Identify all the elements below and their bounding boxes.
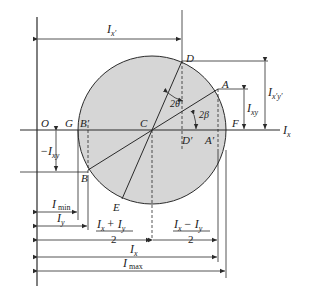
label-F: F bbox=[231, 117, 239, 129]
label-I-xy: Ixy bbox=[246, 101, 259, 117]
label-I-min: Imin bbox=[51, 197, 70, 212]
label-O: O bbox=[41, 117, 49, 129]
label-I-xpyp: Ix′y′ bbox=[267, 85, 283, 101]
label-B-prime: B′ bbox=[80, 117, 90, 129]
label-I-x: Ix bbox=[129, 242, 138, 258]
label-diff-denominator: 2 bbox=[188, 233, 194, 245]
label-sum-numerator: Ix+ Iy bbox=[96, 217, 126, 233]
label-I-max: Imax bbox=[122, 256, 143, 271]
label-diff-numerator: Ix− Iy bbox=[173, 217, 203, 233]
label-A-prime: A′ bbox=[204, 134, 215, 146]
label-I-y: Iy bbox=[56, 211, 65, 227]
label-neg-I-xy: −Ixy bbox=[40, 144, 60, 160]
label-D: D bbox=[185, 52, 194, 64]
label-2theta: 2θ bbox=[170, 98, 180, 109]
label-sum-denominator: 2 bbox=[111, 233, 117, 245]
label-E: E bbox=[112, 201, 120, 213]
label-G: G bbox=[65, 117, 73, 129]
label-B: B bbox=[81, 172, 88, 184]
label-C: C bbox=[140, 117, 148, 129]
axis-label-Ix: Ix bbox=[282, 123, 291, 139]
label-2beta: 2β bbox=[199, 109, 209, 120]
mohr-circle-diagram: O G B′ C D A D′ A′ F B E Ix Ix′ 2θ 2β Ix… bbox=[0, 0, 309, 301]
label-A: A bbox=[221, 78, 229, 90]
label-D-prime: D′ bbox=[181, 134, 193, 146]
label-I-x-prime: Ix′ bbox=[106, 22, 117, 38]
